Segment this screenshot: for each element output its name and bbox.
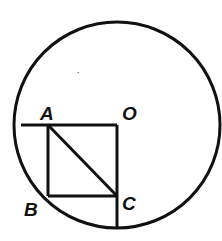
label-c: C [122,193,136,214]
stray-mark: - [77,68,80,75]
diagonal-ac [48,125,117,196]
geometry-diagram: A O B C - [0,0,222,241]
label-a: A [39,103,54,124]
label-o: O [122,103,137,124]
label-b: B [24,199,38,220]
